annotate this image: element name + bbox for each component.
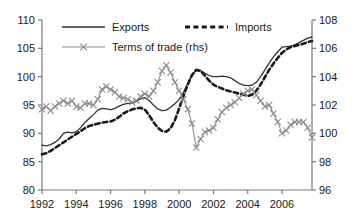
chart-container: 8085909510010511096981001021041061081992… (0, 0, 355, 222)
x-axis-tick-label: 1994 (64, 198, 88, 210)
marker-x-icon (305, 125, 311, 131)
left-axis-tick-label: 95 (23, 99, 35, 111)
line-chart: 8085909510010511096981001021041061081992… (0, 0, 355, 222)
chart-legend: ExportsImportsTerms of trade (rhs) (62, 21, 272, 53)
legend-label-terms-of-trade: Terms of trade (rhs) (112, 41, 208, 53)
marker-x-icon (176, 88, 182, 94)
right-axis-tick-label: 102 (319, 99, 337, 111)
marker-x-icon (95, 96, 101, 102)
left-axis-tick-label: 80 (23, 184, 35, 196)
marker-x-icon (163, 62, 169, 68)
x-axis-tick-label: 2006 (270, 198, 294, 210)
marker-x-icon (150, 88, 156, 94)
right-axis-tick-label: 96 (319, 184, 331, 196)
marker-x-icon (275, 119, 281, 125)
marker-x-icon (215, 116, 221, 122)
marker-x-icon (253, 92, 259, 98)
marker-x-icon (257, 98, 263, 104)
legend-label-imports: Imports (235, 21, 272, 33)
right-axis-tick-label: 106 (319, 42, 337, 54)
x-axis-tick-label: 1996 (98, 198, 122, 210)
marker-x-icon (167, 69, 173, 75)
marker-x-icon (270, 110, 276, 116)
marker-x-icon (155, 79, 161, 85)
right-axis-tick-label: 104 (319, 71, 337, 83)
right-axis-tick-label: 108 (319, 14, 337, 26)
x-axis-tick-label: 2002 (201, 198, 225, 210)
right-axis-tick-label: 98 (319, 156, 331, 168)
x-axis-tick-label: 1992 (30, 198, 54, 210)
legend-label-exports: Exports (112, 21, 150, 33)
left-axis-tick-label: 90 (23, 127, 35, 139)
right-axis-tick-label: 100 (319, 127, 337, 139)
left-axis-tick-label: 100 (17, 71, 35, 83)
marker-x-icon (172, 79, 178, 85)
x-axis-tick-label: 2004 (235, 198, 259, 210)
x-axis-tick-label: 1998 (133, 198, 157, 210)
marker-x-icon (159, 68, 165, 74)
series-markers-terms-of-trade (39, 62, 315, 150)
left-axis-tick-label: 85 (23, 156, 35, 168)
x-axis-tick-label: 2000 (167, 198, 191, 210)
series-line-imports (42, 41, 312, 154)
marker-x-icon (185, 106, 191, 112)
marker-x-icon (197, 136, 203, 142)
left-axis-tick-label: 105 (17, 42, 35, 54)
left-axis-tick-label: 110 (17, 14, 35, 26)
